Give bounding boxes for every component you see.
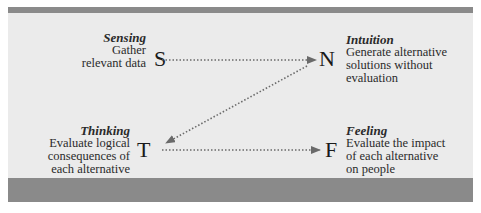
arrows-layer <box>0 0 481 213</box>
arrow-n-to-t <box>166 66 307 143</box>
